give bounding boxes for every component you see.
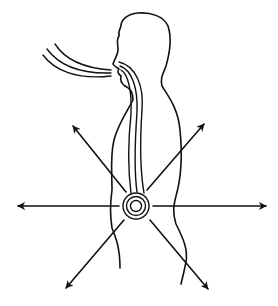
breath-diagram <box>0 0 278 306</box>
breath-channel-streams <box>119 62 144 193</box>
arrow-lower-left-icon <box>66 220 124 288</box>
breath-inflow-streams <box>43 44 111 77</box>
energy-center-rings <box>123 193 149 219</box>
middle-ring <box>127 197 146 216</box>
human-figure-outline <box>111 13 187 284</box>
arrow-upper-right-icon <box>147 124 204 190</box>
inner-ring <box>131 201 142 212</box>
back-outline-path <box>113 13 187 284</box>
arrow-upper-left-icon <box>73 126 126 192</box>
